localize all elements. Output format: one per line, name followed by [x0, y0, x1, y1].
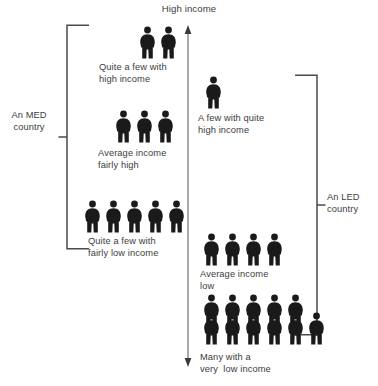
person-icon [205, 76, 222, 109]
caption-med-average-line2: fairly high [98, 160, 139, 170]
bracket-med-label: An MEDcountry [2, 110, 56, 133]
caption-led-high: A few with quitehigh income [198, 113, 264, 136]
caption-led-average-line2: low [200, 281, 214, 291]
person-icon [136, 110, 153, 143]
axis-up-arrow-icon [185, 25, 192, 34]
person-icon [115, 110, 132, 143]
person-icon [139, 26, 156, 59]
bracket-led-label-line2: country [327, 204, 358, 214]
figure-group-led-high [205, 76, 222, 109]
person-icon [245, 312, 262, 345]
income-distribution-diagram: High income An MEDcountry An LEDcountry … [0, 0, 378, 386]
caption-med-average: Average incomefairly high [98, 148, 166, 171]
caption-med-low-line1: Quite a few with [88, 236, 156, 246]
person-icon [157, 110, 174, 143]
figure-group-med-average [115, 110, 174, 143]
person-icon [84, 200, 101, 233]
caption-led-average: Average incomelow [200, 269, 268, 292]
person-icon [160, 26, 177, 59]
figure-group-led-many-row2 [203, 312, 325, 345]
person-icon [224, 312, 241, 345]
axis-top-label: High income [162, 3, 216, 14]
person-icon [266, 312, 283, 345]
person-icon [203, 233, 220, 266]
figure-group-med-low [84, 200, 185, 233]
person-icon [147, 200, 164, 233]
figure-group-med-high [139, 26, 177, 59]
bracket-led-label: An LEDcountry [327, 192, 377, 215]
bracket-med-label-line2: country [13, 122, 44, 132]
caption-led-average-line1: Average income [200, 269, 268, 279]
axis-down-arrow-icon [185, 358, 192, 367]
caption-led-high-line2: high income [198, 125, 249, 135]
caption-med-high: Quite a few withhigh income [99, 62, 167, 85]
person-icon [245, 233, 262, 266]
person-icon [168, 200, 185, 233]
person-icon [287, 312, 304, 345]
caption-led-many-line1: Many with a [200, 352, 251, 362]
figure-group-led-average [203, 233, 283, 266]
bracket-med-label-line1: An MED [11, 110, 46, 120]
person-icon [224, 233, 241, 266]
caption-led-many-line2: very low income [200, 364, 271, 374]
caption-med-high-line2: high income [99, 74, 150, 84]
person-icon [203, 312, 220, 345]
person-icon [266, 233, 283, 266]
bracket-led-label-line1: An LED [327, 192, 360, 202]
income-axis [179, 24, 197, 368]
caption-med-low: Quite a few withfairly low income [88, 236, 158, 259]
caption-led-high-line1: A few with quite [198, 113, 264, 123]
person-icon [126, 200, 143, 233]
caption-med-low-line2: fairly low income [88, 248, 158, 258]
caption-led-many: Many with avery low income [200, 352, 271, 375]
person-icon [308, 312, 325, 345]
caption-med-average-line1: Average income [98, 148, 166, 158]
person-icon [105, 200, 122, 233]
caption-med-high-line1: Quite a few with [99, 62, 167, 72]
